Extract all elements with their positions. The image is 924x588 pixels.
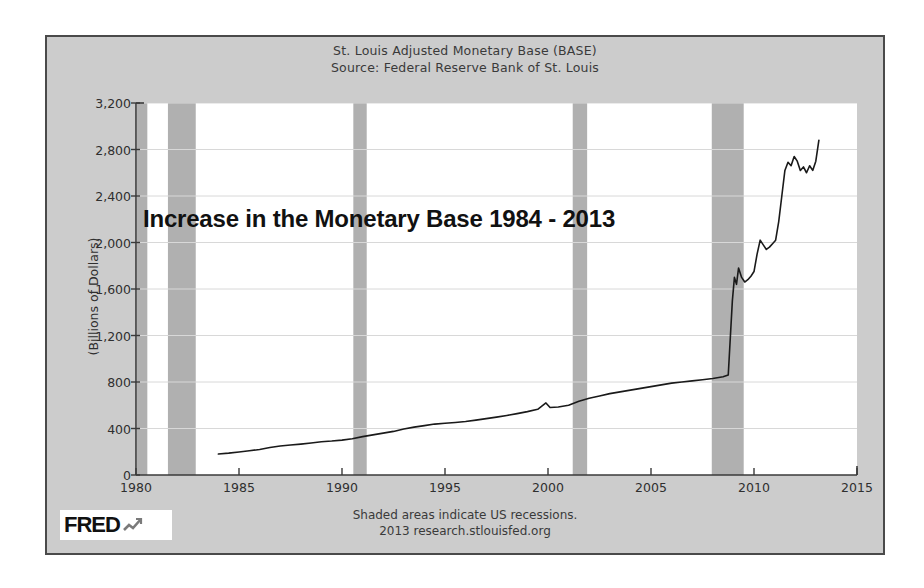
- y-axis-tick-labels: 04008001,2001,6002,0002,4002,8003,200: [59, 103, 131, 475]
- y-axis-tick-label: 2,800: [65, 142, 131, 157]
- y-axis-tick-label: 400: [65, 421, 131, 436]
- screenshot-canvas: St. Louis Adjusted Monetary Base (BASE) …: [0, 0, 924, 588]
- attribution-note: 2013 research.stlouisfed.org: [47, 523, 883, 539]
- y-axis-tick-label: 800: [65, 375, 131, 390]
- y-axis-tick-label: 3,200: [65, 96, 131, 111]
- chart-title: St. Louis Adjusted Monetary Base (BASE): [47, 43, 883, 60]
- x-axis-tick-label: 2000: [518, 480, 578, 495]
- x-axis-tick-label: 1990: [312, 480, 372, 495]
- chart-arrow-icon: [123, 517, 143, 533]
- x-axis-tick-label: 1995: [415, 480, 475, 495]
- plot-area: [136, 103, 857, 475]
- x-axis-tick-label: 1980: [106, 480, 166, 495]
- chart-annotation-text: Increase in the Monetary Base 1984 - 201…: [143, 205, 615, 233]
- chart-footer: Shaded areas indicate US recessions. 201…: [47, 507, 883, 539]
- x-axis-tick-label: 2005: [621, 480, 681, 495]
- fred-wordmark: FRED: [64, 514, 120, 536]
- chart-source: Source: Federal Reserve Bank of St. Loui…: [47, 60, 883, 77]
- x-axis-tick-labels: 19801985199019952000200520102015: [136, 480, 857, 500]
- x-axis-tick-label: 1985: [209, 480, 269, 495]
- y-axis-tick-label: 2,400: [65, 189, 131, 204]
- series-plot: [136, 103, 857, 475]
- x-axis-tick-label: 2010: [724, 480, 784, 495]
- y-axis-tick-label: 1,600: [65, 282, 131, 297]
- chart-header: St. Louis Adjusted Monetary Base (BASE) …: [47, 43, 883, 77]
- y-axis-tick-label: 1,200: [65, 328, 131, 343]
- x-axis-tick-label: 2015: [827, 480, 887, 495]
- fred-logo[interactable]: FRED: [60, 510, 172, 540]
- fred-chart-frame: St. Louis Adjusted Monetary Base (BASE) …: [45, 35, 885, 555]
- y-axis-tick-label: 2,000: [65, 235, 131, 250]
- recession-note: Shaded areas indicate US recessions.: [47, 507, 883, 523]
